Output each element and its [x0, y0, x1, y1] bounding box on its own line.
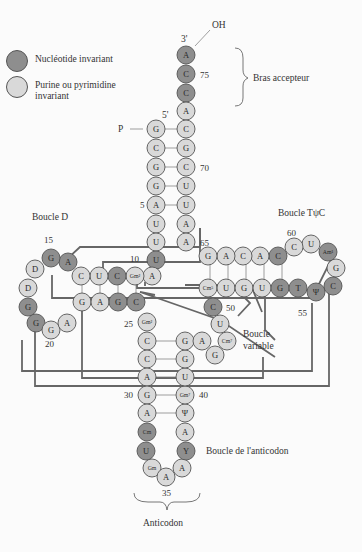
svg-text:G: G	[115, 297, 121, 307]
nucleotide-7: U	[147, 233, 165, 251]
phosphate-label: P	[118, 124, 123, 134]
nucleotide-71: G	[177, 139, 195, 157]
pos-30: 30	[124, 390, 134, 400]
nucleotide-64: A	[217, 247, 235, 265]
nucleotide-6: U	[147, 215, 165, 233]
nucleotide-41: U	[176, 368, 194, 386]
svg-text:U: U	[183, 181, 189, 191]
svg-text:C: C	[183, 162, 189, 172]
nucleotide-13: C	[72, 267, 90, 285]
acceptor-stem: A C C A G C G G A U U C G C U U A A	[147, 46, 195, 251]
svg-text:U: U	[153, 237, 159, 247]
svg-text:G: G	[241, 283, 247, 293]
nucleotide-72: C	[177, 120, 195, 138]
svg-text:A: A	[183, 106, 190, 116]
svg-text:Gm⁷: Gm⁷	[180, 392, 191, 398]
pos-10: 10	[130, 254, 140, 264]
nucleotide-16: D	[26, 260, 44, 278]
svg-text:U: U	[259, 283, 265, 293]
nucleotide-10: Gm²	[126, 267, 144, 285]
nucleotide-14: A	[59, 253, 77, 271]
nucleotide-1: G	[147, 120, 165, 138]
nucleotide-57: G	[327, 259, 345, 277]
nucleotide-32: Cm	[138, 423, 156, 441]
nucleotide-52: U	[253, 279, 271, 297]
pos-20: 20	[45, 339, 55, 349]
svg-text:A: A	[223, 251, 230, 261]
nucleotide-39: Ψ	[176, 404, 194, 422]
light-circle-icon	[6, 76, 28, 98]
svg-text:U: U	[182, 372, 188, 382]
svg-text:C: C	[144, 336, 150, 346]
svg-text:U: U	[153, 219, 159, 229]
pos-15: 15	[44, 235, 54, 245]
acceptor-brace	[235, 48, 248, 106]
nucleotide-37: Y	[177, 442, 195, 460]
svg-text:A: A	[144, 372, 151, 382]
pos-70: 70	[200, 163, 210, 173]
dark-circle-icon	[6, 50, 28, 72]
nucleotide-9: A	[143, 267, 161, 285]
svg-text:G: G	[153, 181, 159, 191]
nucleotide-56: C	[324, 277, 342, 295]
nucleotide-20: G	[42, 321, 60, 339]
svg-text:A: A	[149, 271, 156, 281]
nucleotide-33: U	[137, 442, 155, 460]
nucleotide-74: C	[177, 84, 195, 102]
nucleotide-66: A	[177, 233, 195, 251]
nucleotide-15: G	[42, 249, 60, 267]
svg-text:A: A	[97, 297, 104, 307]
nucleotide-43: G	[176, 332, 194, 350]
svg-text:G: G	[153, 124, 159, 134]
svg-text:A: A	[65, 257, 72, 267]
nucleotide-31: A	[138, 404, 156, 422]
svg-text:U: U	[153, 255, 159, 265]
nucleotide-25: C	[127, 293, 145, 311]
pos-50: 50	[226, 303, 236, 313]
pos-75: 75	[200, 70, 210, 80]
nucleotide-28: C	[138, 350, 156, 368]
svg-text:C: C	[183, 69, 189, 79]
pos-40: 40	[199, 390, 209, 400]
svg-text:Y: Y	[183, 446, 189, 456]
nucleotide-44: A	[193, 332, 211, 350]
svg-text:G: G	[277, 283, 283, 293]
nucleotide-76: A	[177, 46, 195, 64]
nucleotide-60: C	[285, 238, 303, 256]
svg-text:C: C	[240, 251, 246, 261]
nucleotide-65: G	[199, 247, 217, 265]
nucleotide-21: A	[58, 314, 76, 332]
nucleotide-27: C	[138, 332, 156, 350]
nucleotide-4: G	[147, 177, 165, 195]
svg-text:C: C	[153, 143, 159, 153]
svg-text:G: G	[48, 325, 54, 335]
svg-text:U: U	[143, 446, 149, 456]
svg-text:C: C	[210, 302, 216, 312]
svg-text:A: A	[183, 237, 190, 247]
svg-text:A: A	[179, 463, 186, 473]
nucleotide-42: G	[176, 350, 194, 368]
nucleotide-23: A	[91, 293, 109, 311]
nucleotide-50: U	[217, 279, 235, 297]
nucleotide-69: U	[177, 177, 195, 195]
svg-text:U: U	[308, 239, 314, 249]
svg-text:A: A	[257, 251, 264, 261]
svg-text:G: G	[333, 263, 339, 273]
svg-text:U: U	[217, 319, 223, 329]
pos-25: 25	[124, 319, 134, 329]
nucleotide-5: A	[147, 196, 165, 214]
svg-text:G: G	[33, 318, 39, 328]
five-prime-label: 5'	[162, 110, 169, 120]
nucleotide-46: Cm⁷	[218, 332, 236, 350]
nucleotide-51: G	[235, 279, 253, 297]
svg-text:C: C	[183, 88, 189, 98]
nucleotide-30: G	[138, 386, 156, 404]
nucleotide-70: C	[177, 158, 195, 176]
nucleotide-22: G	[73, 293, 91, 311]
pos-55: 55	[298, 308, 308, 318]
variable-loop-label-line2: variable	[243, 341, 274, 351]
nucleotide-18: G	[19, 298, 37, 316]
svg-text:G: G	[79, 297, 85, 307]
three-prime-label: 3'	[181, 34, 188, 44]
svg-text:A: A	[153, 200, 160, 210]
